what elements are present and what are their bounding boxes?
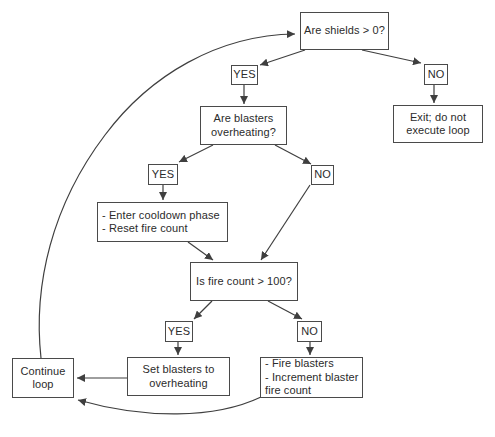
node-are-blasters: Are blasters overheating?: [200, 106, 287, 145]
node-are-shields: Are shields > 0?: [300, 12, 389, 50]
edge-blasters-to-no: [275, 145, 311, 164]
flowchart-canvas: Are shields > 0? YES NO Exit; do not exe…: [0, 0, 495, 437]
node-yes-fire-count: YES: [165, 321, 193, 342]
node-no-shields: NO: [424, 64, 448, 85]
node-no-fire-count: NO: [297, 321, 322, 342]
edge-shields-to-yes: [260, 50, 305, 65]
node-no-blasters: NO: [311, 165, 334, 185]
node-cooldown: - Enter cooldown phase - Reset fire coun…: [97, 202, 228, 242]
node-yes-shields: YES: [231, 65, 258, 85]
edge-fireblasters-to-continue: [78, 397, 261, 414]
edge-no-to-firecount: [261, 185, 310, 260]
edge-firecount-to-yes: [194, 301, 212, 319]
node-set-overheating: Set blasters to overheating: [127, 357, 230, 396]
node-yes-blasters: YES: [148, 164, 178, 185]
node-fire-blasters: - Fire blasters - Increment blaster fire…: [260, 357, 363, 398]
edge-blasters-to-yes: [179, 145, 213, 162]
node-fire-count: Is fire count > 100?: [190, 262, 298, 301]
node-exit-loop: Exit; do not execute loop: [393, 105, 483, 143]
edge-cooldown-to-firecount: [188, 242, 213, 260]
node-continue-loop: Continue loop: [12, 358, 74, 398]
edge-shields-to-no: [362, 50, 421, 63]
edge-firecount-to-no: [268, 301, 302, 319]
